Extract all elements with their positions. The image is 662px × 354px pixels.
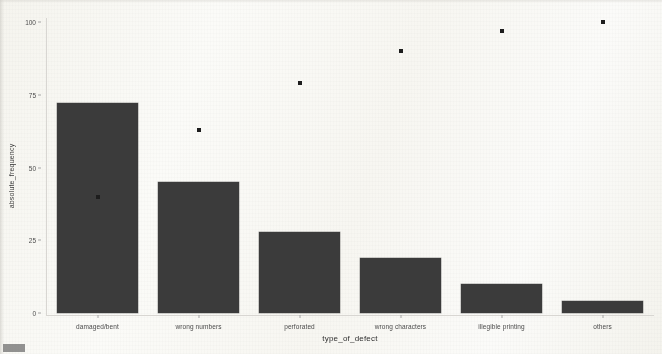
scan-artifact-smudge bbox=[3, 344, 25, 352]
bar bbox=[461, 284, 543, 313]
x-tick-mark bbox=[602, 315, 603, 318]
y-tick-mark bbox=[38, 313, 41, 314]
y-tick-mark bbox=[38, 167, 41, 168]
x-tick-label: wrong numbers bbox=[175, 323, 221, 330]
plot-area bbox=[47, 18, 653, 315]
bar bbox=[259, 232, 341, 313]
cumulative-point bbox=[96, 195, 100, 199]
y-tick-label: 25 bbox=[29, 237, 36, 244]
x-tick-mark bbox=[97, 315, 98, 318]
y-tick-label: 100 bbox=[25, 19, 36, 26]
pareto-chart: 0255075100 absolute_frequency damaged/be… bbox=[0, 0, 662, 354]
bar bbox=[562, 301, 644, 313]
x-axis-title: type_of_defect bbox=[322, 334, 377, 343]
bar bbox=[57, 103, 139, 313]
cumulative-point bbox=[500, 29, 504, 33]
cumulative-point bbox=[399, 49, 403, 53]
y-tick-label: 50 bbox=[29, 164, 36, 171]
x-tick-label: illegible printing bbox=[478, 323, 525, 330]
x-tick-mark bbox=[400, 315, 401, 318]
x-tick-mark bbox=[299, 315, 300, 318]
x-tick-mark bbox=[501, 315, 502, 318]
x-tick-label: perforated bbox=[284, 323, 315, 330]
y-tick-label: 75 bbox=[29, 91, 36, 98]
x-tick-label: others bbox=[593, 323, 612, 330]
scan-edge-shadow-top bbox=[0, 0, 662, 3]
cumulative-point bbox=[197, 128, 201, 132]
y-tick-mark bbox=[38, 94, 41, 95]
bar bbox=[360, 258, 442, 313]
cumulative-point bbox=[298, 81, 302, 85]
x-tick-label: damaged/bent bbox=[76, 323, 119, 330]
bar bbox=[158, 182, 240, 313]
cumulative-point bbox=[601, 20, 605, 24]
y-tick-mark bbox=[38, 240, 41, 241]
y-axis-title: absolute_frequency bbox=[8, 144, 15, 209]
x-tick-mark bbox=[198, 315, 199, 318]
y-tick-mark bbox=[38, 22, 41, 23]
x-tick-label: wrong characters bbox=[375, 323, 426, 330]
